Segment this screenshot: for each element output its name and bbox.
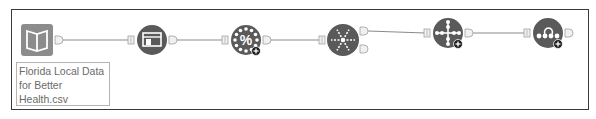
input-anchor[interactable] — [222, 36, 228, 44]
annotation-line: Health.csv — [19, 92, 107, 106]
input-anchor[interactable] — [128, 36, 134, 44]
snowflake-icon — [327, 24, 359, 56]
output-anchor[interactable] — [465, 29, 473, 37]
output-anchor[interactable] — [263, 36, 271, 44]
output-anchor-true[interactable] — [360, 27, 368, 35]
output-anchor[interactable] — [565, 29, 573, 37]
tool-node-arrange[interactable] — [424, 18, 473, 49]
tool-node-input[interactable] — [21, 24, 63, 56]
input-anchor[interactable] — [319, 36, 325, 44]
tool-node-multirow[interactable] — [319, 24, 368, 56]
add-badge-icon — [554, 40, 563, 49]
annotation-line: for Better — [19, 78, 107, 92]
output-anchor[interactable] — [169, 36, 177, 44]
output-anchor-false[interactable] — [360, 45, 368, 53]
browse-icon — [137, 25, 167, 55]
add-badge-icon — [252, 47, 261, 56]
book-icon — [21, 24, 53, 56]
tool-node-formula[interactable]: % — [222, 25, 271, 56]
annotation-line: Florida Local Data — [19, 64, 107, 78]
input-anchor[interactable] — [524, 29, 530, 37]
output-anchor[interactable] — [55, 36, 63, 44]
tool-annotation[interactable]: Florida Local Data for Better Health.csv — [16, 62, 110, 106]
input-anchor[interactable] — [424, 29, 430, 37]
tool-node-browse[interactable] — [128, 25, 177, 55]
svg-text:%: % — [240, 32, 253, 48]
tool-node-join[interactable] — [524, 18, 573, 49]
connector-line[interactable] — [368, 31, 425, 33]
add-badge-icon — [454, 40, 463, 49]
